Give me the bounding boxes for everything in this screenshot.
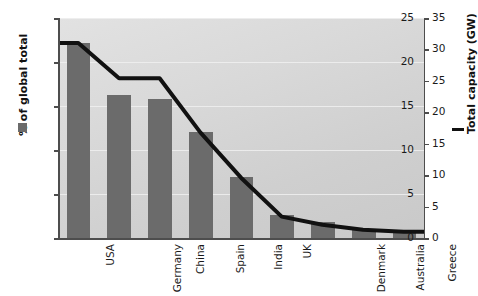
left-tick [54, 194, 58, 196]
left-tick-label: 15 [388, 99, 414, 111]
right-tick-label: 15 [432, 137, 456, 149]
left-tick-label: 25 [388, 11, 414, 23]
right-tick-label: 5 [432, 200, 456, 212]
right-tick-label: 30 [432, 42, 456, 54]
right-tick [425, 81, 429, 83]
right-tick-label: 35 [432, 11, 456, 23]
category-label-germany: Germany [171, 244, 183, 292]
right-tick [425, 207, 429, 209]
category-label-india: India [271, 244, 283, 270]
category-labels: USAGermanyChinaSpainIndiaUKDenmarkAustra… [58, 242, 425, 296]
total-capacity-line [58, 43, 424, 232]
line-series-layer [58, 18, 424, 238]
right-tick [425, 18, 429, 20]
right-tick-label: 0 [432, 231, 456, 243]
left-tick-label: 5 [388, 187, 414, 199]
category-label-spain: Spain [234, 244, 246, 273]
category-label-usa: USA [104, 244, 116, 266]
right-tick [425, 49, 429, 51]
left-tick-label: 10 [388, 143, 414, 155]
right-tick [425, 112, 429, 114]
right-tick [425, 238, 429, 240]
legend-swatch-percent-icon [18, 123, 27, 132]
right-tick-label: 25 [432, 74, 456, 86]
left-axis-title-text: % of global total [17, 34, 30, 136]
category-label-australia: Australia [414, 244, 426, 290]
right-tick [425, 144, 429, 146]
category-label-denmark: Denmark [375, 244, 387, 292]
left-tick [54, 106, 58, 108]
bottom-axis-line [58, 238, 426, 240]
left-tick-label: 20 [388, 55, 414, 67]
left-tick [54, 238, 58, 240]
category-label-uk: UK [301, 244, 313, 259]
right-tick [425, 175, 429, 177]
right-tick-label: 10 [432, 168, 456, 180]
left-axis-line [58, 18, 60, 238]
legend-line-capacity-icon [452, 128, 464, 131]
left-tick [54, 62, 58, 64]
category-label-greece: Greece [446, 244, 458, 281]
right-axis-title-text: Total capacity (GW) [465, 13, 478, 134]
left-tick [54, 18, 58, 20]
right-tick-label: 20 [432, 105, 456, 117]
category-label-china: China [194, 244, 206, 274]
plot-area [58, 18, 425, 238]
left-tick [54, 150, 58, 152]
